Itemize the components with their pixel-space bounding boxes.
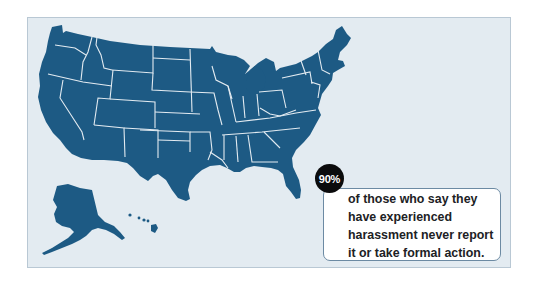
stat-description-line: it or take formal action.	[348, 244, 502, 262]
stat-callout-box: of those who say they have experienced h…	[323, 188, 501, 261]
stat-percentage-badge: 90%	[315, 164, 344, 193]
stat-description-line: harassment never report	[348, 226, 502, 244]
stat-description: of those who say they have experienced h…	[348, 190, 502, 262]
contiguous-us-shape	[38, 25, 351, 201]
stat-description-line: have experienced	[348, 208, 502, 226]
hawaii-island	[142, 218, 145, 221]
hawaii-island	[138, 217, 141, 220]
hawaii-big-island	[151, 224, 158, 233]
hawaii-island	[147, 220, 150, 223]
alaska-shape	[42, 184, 125, 255]
hawaii-island	[128, 213, 131, 216]
stat-description-line: of those who say they	[348, 190, 502, 208]
